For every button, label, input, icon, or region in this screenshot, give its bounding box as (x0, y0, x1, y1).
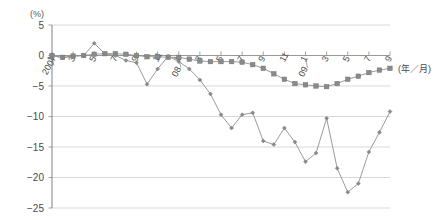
data-point-square (208, 59, 213, 64)
data-point-square (176, 55, 181, 60)
data-point-square (324, 84, 329, 89)
data-point-diamond (251, 111, 255, 115)
data-point-square (240, 60, 245, 65)
series-layer (50, 41, 393, 194)
data-point-square (377, 68, 382, 73)
year-label: 08 (170, 65, 184, 79)
data-point-square (303, 82, 308, 87)
year-label: 09 (296, 65, 310, 79)
y-tick-label: 0 (38, 50, 44, 61)
data-point-diamond (261, 139, 265, 143)
series-diamond (50, 41, 392, 194)
data-point-square (335, 81, 340, 86)
y-tick-label: −5 (33, 81, 45, 92)
data-point-diamond (367, 150, 371, 154)
data-point-square (314, 84, 319, 89)
data-point-square (261, 66, 266, 71)
data-point-square (187, 57, 192, 62)
data-point-square (145, 54, 150, 59)
data-point-square (345, 77, 350, 82)
data-point-square (229, 59, 234, 64)
data-point-square (198, 59, 203, 64)
y-tick-label: −20 (27, 172, 44, 183)
y-tick-label: 5 (38, 20, 44, 31)
data-point-square (92, 52, 97, 57)
data-point-diamond (377, 130, 381, 134)
data-point-square (356, 74, 361, 79)
y-tick-label: −10 (27, 111, 44, 122)
data-point-diamond (388, 110, 392, 114)
y-tick-label: −25 (27, 203, 44, 214)
data-point-square (134, 53, 139, 58)
y-axis-unit-label: (%) (30, 9, 44, 19)
data-point-square (124, 52, 129, 57)
y-tick-labels-group: 50−5−10−15−20−25 (27, 20, 44, 214)
y-tick-label: −15 (27, 142, 44, 153)
chart-container: 50−5−10−15−20−25 1357911135791113579 200… (0, 0, 436, 220)
data-point-square (250, 62, 255, 67)
data-point-square (293, 81, 298, 86)
series-line-diamond (52, 43, 390, 192)
data-point-diamond (335, 166, 339, 170)
data-point-square (272, 72, 277, 77)
data-point-square (155, 54, 160, 59)
data-point-square (367, 70, 372, 75)
data-point-diamond (325, 116, 329, 120)
data-point-square (219, 59, 224, 64)
data-point-square (388, 66, 393, 71)
data-point-square (282, 77, 287, 82)
x-tick-label: 11 (277, 50, 290, 63)
line-chart: 50−5−10−15−20−25 1357911135791113579 200… (0, 0, 436, 220)
x-axis-title: (年／月) (398, 63, 431, 74)
data-point-diamond (124, 58, 128, 62)
